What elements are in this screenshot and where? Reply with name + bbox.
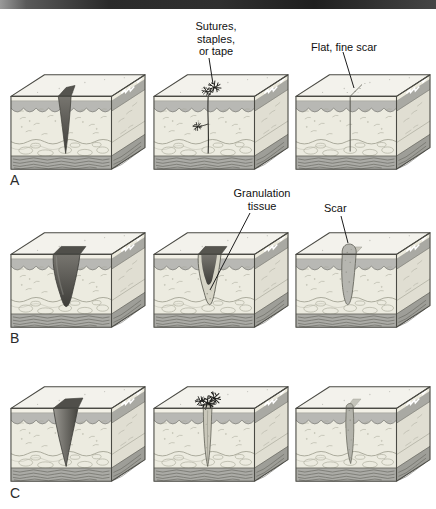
skin-block-b1-gaping-wound (8, 222, 146, 336)
row-label-b: B (10, 330, 19, 346)
skin-block-c3-wide-scar (293, 376, 431, 490)
skin-block-c1-wide-wound (8, 376, 146, 490)
callout-sutures-staples-tape: Sutures, staples, or tape (178, 20, 254, 58)
top-divider-bar (0, 0, 436, 9)
skin-block-b2-granulation (151, 222, 289, 336)
callout-granulation-tissue: Granulation tissue (224, 187, 300, 212)
skin-block-a1-open-incision (8, 64, 146, 178)
callout-scar: Scar (324, 202, 347, 215)
skin-block-b3-scar (293, 222, 431, 336)
row-label-c: C (10, 485, 20, 501)
skin-block-a2-sutured-incision (151, 64, 289, 178)
row-label-a: A (10, 172, 19, 188)
skin-block-a3-fine-scar (293, 64, 431, 178)
skin-block-c2-sutured-granulation (151, 376, 289, 490)
callout-flat-fine-scar: Flat, fine scar (311, 41, 377, 54)
